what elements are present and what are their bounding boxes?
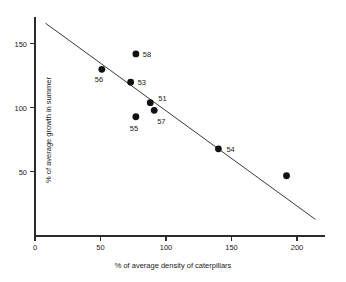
y-tick-label: 50: [19, 168, 27, 177]
x-tick-label: 200: [291, 243, 304, 252]
scatter-chart: 50100150 050100150200 56585351575554 % o…: [0, 0, 346, 282]
data-point: [132, 51, 139, 58]
x-axis-tick-labels: 050100150200: [33, 243, 303, 252]
x-tick-label: 50: [96, 243, 104, 252]
data-point-label: 54: [226, 145, 234, 154]
data-point: [215, 145, 222, 152]
y-axis-ticks: [30, 44, 35, 172]
data-point-label: 56: [95, 75, 103, 84]
y-axis-tick-labels: 50100150: [14, 40, 27, 177]
data-point-label: 58: [143, 50, 151, 59]
data-point: [98, 66, 105, 73]
data-point: [132, 113, 139, 120]
x-axis-title: % of average density of caterpillars: [115, 261, 232, 270]
x-tick-label: 100: [160, 243, 173, 252]
data-point: [151, 107, 158, 114]
y-axis-title: % of average growth in summer: [44, 77, 53, 183]
data-point-label: 53: [138, 78, 146, 87]
x-tick-label: 150: [225, 243, 238, 252]
data-point-label: 57: [157, 117, 165, 126]
data-point: [127, 79, 134, 86]
data-point-label: 55: [130, 124, 138, 133]
plot-area: 50100150 050100150200 56585351575554 % o…: [0, 0, 346, 282]
data-point-label-group: 56585351575554: [95, 50, 235, 154]
data-point: [283, 172, 290, 179]
trend-line: [45, 23, 315, 219]
x-tick-label: 0: [33, 243, 37, 252]
y-tick-label: 150: [14, 40, 27, 49]
y-tick-label: 100: [14, 104, 27, 113]
data-point: [147, 99, 154, 106]
data-point-label: 51: [158, 94, 166, 103]
data-point-group: [98, 51, 290, 180]
x-axis-ticks: [35, 236, 297, 241]
